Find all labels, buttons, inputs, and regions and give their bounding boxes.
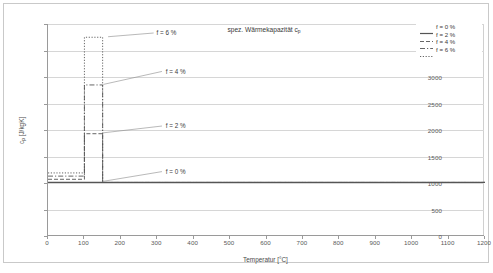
x-tick-label: 1200 [477,239,491,246]
annotation-label: f = 2 % [166,122,186,129]
y-tick-label: 2000 [428,127,442,134]
y-tick-label: 500 [431,206,442,213]
x-tick-label: 800 [333,239,344,246]
y-tick-mark [44,157,47,158]
legend-key-dotted [420,46,433,53]
legend-key-dashed [420,31,433,38]
y-tick-mark [44,130,47,131]
legend-label: f = 6 % [436,46,455,53]
chart-frame: spez. Wärmekapazität cp cp [J/kgK] Tempe… [3,3,489,263]
x-tick-label: 100 [78,239,89,246]
annotation-label: f = 4 % [166,68,186,75]
y-tick-mark [44,104,47,105]
annotation-leader [103,71,162,84]
y-tick-mark [44,24,47,25]
legend-key-dash-dot [420,38,433,45]
series-line-f=2 [48,134,485,183]
x-tick-label: 1100 [441,239,455,246]
y-axis-title-wrap: cp [J/kgK] [18,144,28,154]
annotation-label: f = 6 % [157,29,177,36]
y-tick-label: 1500 [428,153,442,160]
y-tick-label: 2500 [428,100,442,107]
x-axis-title: Temperatur [°C] [47,256,484,263]
y-tick-label: 3000 [428,74,442,81]
x-tick-label: 500 [224,239,235,246]
x-tick-label: 400 [187,239,198,246]
y-tick-mark [44,77,47,78]
legend-label: f = 0 % [436,23,455,30]
annotation-leader [103,126,162,133]
x-tick-label: 200 [115,239,126,246]
y-tick-label: 1000 [428,180,442,187]
x-tick-label: 600 [260,239,271,246]
annotation-leader [103,172,162,182]
legend-item[interactable]: f = 4 % [420,38,479,46]
x-tick-label: 0 [45,239,49,246]
chart-screenshot: spez. Wärmekapazität cp cp [J/kgK] Tempe… [0,0,493,273]
legend-label: f = 4 % [436,38,455,45]
annotation-label: f = 0 % [166,168,186,175]
x-tick-label: 1000 [404,239,418,246]
legend-label: f = 2 % [436,31,455,38]
legend-item[interactable]: f = 6 % [420,46,479,54]
legend-rows: f = 0 %f = 2 %f = 4 %f = 6 % [420,23,479,53]
annotation-leader [108,33,154,37]
x-tick-label: 900 [369,239,380,246]
y-tick-mark [44,210,47,211]
series-line-f=4 [48,85,485,183]
x-tick-label: 300 [151,239,162,246]
y-tick-mark [44,183,47,184]
y-axis-title: cp [J/kgK] [18,117,26,144]
legend-key-solid [420,23,433,30]
legend: f = 0 %f = 2 %f = 4 %f = 6 % [416,20,482,56]
y-tick-mark [44,51,47,52]
legend-item[interactable]: f = 2 % [420,31,479,39]
legend-item[interactable]: f = 0 % [420,23,479,31]
x-tick-label: 700 [297,239,308,246]
